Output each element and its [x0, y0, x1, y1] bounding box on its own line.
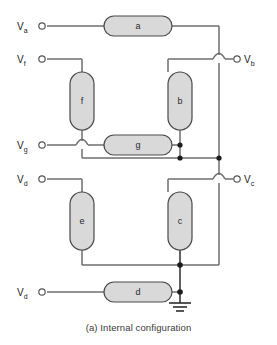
terminal-label-vc-sub: c: [251, 180, 255, 187]
circuit-figure: a f b g e c d: [0, 0, 277, 345]
terminal-label-vd-lower: Vd: [17, 287, 28, 300]
circuit-schematic-canvas: a f b g e c d: [0, 0, 277, 345]
terminal-label-va: Va: [17, 21, 28, 34]
terminal-label-vf: Vf: [17, 54, 26, 67]
segment-c-label: c: [178, 216, 183, 226]
net-vd-upper: [47, 179, 82, 192]
terminal-label-vg: Vg: [17, 140, 28, 154]
segment-box-g[interactable]: g: [104, 135, 172, 155]
segment-box-d[interactable]: d: [104, 282, 172, 302]
terminal-circle-vc[interactable]: [234, 176, 240, 182]
terminal-circle-vg[interactable]: [39, 142, 45, 148]
net-vb: [168, 54, 233, 73]
segment-d-label: d: [135, 287, 140, 297]
segment-b-label: b: [177, 96, 182, 106]
terminal-label-va-sub: a: [24, 27, 28, 34]
terminal-circle-vf[interactable]: [39, 56, 45, 62]
terminal-label-vb: Vb: [244, 54, 255, 67]
junction-dot-bus-mid-b: [177, 155, 182, 160]
terminal-label-vg-sub: g: [24, 146, 28, 154]
terminal-label-vd-lower-sub: d: [24, 293, 28, 300]
junction-dot-bus-mid-right: [216, 155, 221, 160]
terminal-circle-vb[interactable]: [234, 56, 240, 62]
terminal-label-vd-upper: Vd: [17, 174, 28, 187]
terminal-label-vf-sub: f: [24, 60, 26, 67]
segment-box-e[interactable]: e: [70, 192, 94, 250]
net-vc: [168, 174, 233, 193]
junction-dot-g-right: [177, 142, 182, 147]
figure-caption: (a) Internal configuration: [0, 322, 277, 333]
junction-dot-ground: [177, 289, 183, 295]
net-vf: [47, 59, 82, 72]
terminal-circle-vd-lower[interactable]: [39, 289, 45, 295]
junction-dot-bottom-bus: [177, 262, 183, 268]
ground-symbol: [169, 303, 191, 311]
segment-a-label: a: [135, 21, 140, 31]
segment-box-f[interactable]: f: [70, 72, 94, 130]
terminal-circle-vd-upper[interactable]: [39, 176, 45, 182]
segment-box-b[interactable]: b: [168, 72, 192, 130]
segment-g-label: g: [135, 140, 140, 150]
terminal-label-vd-upper-sub: d: [24, 180, 28, 187]
segment-e-label: e: [79, 216, 84, 226]
terminal-circle-va[interactable]: [39, 23, 45, 29]
segment-box-c[interactable]: c: [168, 192, 192, 250]
terminal-label-vc: Vc: [244, 174, 255, 187]
segment-box-a[interactable]: a: [104, 16, 172, 36]
terminal-label-vb-sub: b: [251, 60, 255, 67]
